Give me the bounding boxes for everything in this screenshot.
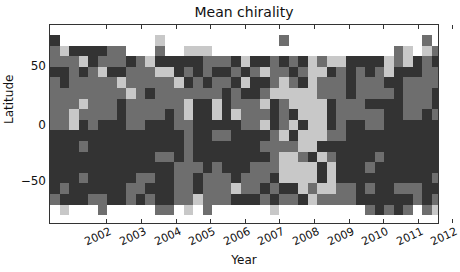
heatmap-cell: [165, 77, 175, 88]
heatmap-cell: [384, 141, 394, 152]
heatmap-cell: [193, 99, 203, 110]
heatmap-cell: [308, 35, 318, 46]
heatmap-cell: [356, 173, 366, 184]
heatmap-cell: [279, 109, 289, 120]
heatmap-cell: [222, 205, 232, 216]
heatmap-cell: [403, 194, 413, 205]
heatmap-cell: [79, 56, 89, 67]
heatmap-cell: [413, 109, 423, 120]
heatmap-cell: [203, 67, 213, 78]
heatmap-cell: [184, 88, 194, 99]
heatmap-cell: [126, 67, 136, 78]
heatmap-cell: [298, 35, 308, 46]
heatmap-cell: [260, 194, 270, 205]
heatmap-cell: [145, 173, 155, 184]
heatmap-cell: [203, 99, 213, 110]
heatmap-cell: [184, 67, 194, 78]
heatmap-cell: [413, 67, 423, 78]
heatmap-cell: [365, 173, 375, 184]
x-tick-2008: 2008: [291, 225, 322, 249]
heatmap-cell: [145, 46, 155, 57]
heatmap-cell: [422, 205, 432, 216]
heatmap-cell: [50, 205, 60, 216]
heatmap-cell: [231, 130, 241, 141]
heatmap-cell: [203, 194, 213, 205]
heatmap-cell: [432, 141, 439, 152]
x-tick-mark: [383, 25, 384, 29]
heatmap-cell: [222, 130, 232, 141]
heatmap-cell: [308, 88, 318, 99]
heatmap-cell: [336, 205, 346, 216]
heatmap-cell: [212, 46, 222, 57]
heatmap-cell: [336, 162, 346, 173]
heatmap-cell: [136, 120, 146, 131]
heatmap-cell: [145, 77, 155, 88]
heatmap-cell: [384, 194, 394, 205]
heatmap-cell: [136, 194, 146, 205]
heatmap-cell: [356, 67, 366, 78]
heatmap-cell: [212, 120, 222, 131]
heatmap-cell: [69, 109, 79, 120]
heatmap-cell: [222, 67, 232, 78]
heatmap-cell: [50, 35, 60, 46]
heatmap-cell: [193, 162, 203, 173]
heatmap-cell: [222, 99, 232, 110]
heatmap-cell: [422, 162, 432, 173]
heatmap-cell: [155, 120, 165, 131]
heatmap-cell: [250, 194, 260, 205]
heatmap-cell: [165, 99, 175, 110]
heatmap-cell: [365, 77, 375, 88]
heatmap-cell: [165, 183, 175, 194]
heatmap-cell: [222, 162, 232, 173]
heatmap-cell: [289, 99, 299, 110]
heatmap-cell: [241, 109, 251, 120]
heatmap-cell: [203, 130, 213, 141]
heatmap-cell: [394, 194, 404, 205]
heatmap-cell: [88, 35, 98, 46]
heatmap-cell: [165, 141, 175, 152]
heatmap-cell: [88, 205, 98, 216]
heatmap-cell: [279, 77, 289, 88]
heatmap-cell: [413, 120, 423, 131]
x-tick-mark: [210, 25, 211, 29]
heatmap-cell: [394, 77, 404, 88]
heatmap-cell: [336, 35, 346, 46]
heatmap-cell: [69, 173, 79, 184]
heatmap-cell: [308, 109, 318, 120]
heatmap-cell: [145, 183, 155, 194]
heatmap-cell: [317, 152, 327, 163]
heatmap-cell: [270, 183, 280, 194]
heatmap-cell: [384, 173, 394, 184]
heatmap-cell: [117, 109, 127, 120]
heatmap-cell: [88, 56, 98, 67]
heatmap-cell: [422, 194, 432, 205]
heatmap-cell: [260, 99, 270, 110]
heatmap-cell: [289, 130, 299, 141]
heatmap-cell: [250, 99, 260, 110]
x-tick-mark: [349, 25, 350, 29]
heatmap-cell: [174, 205, 184, 216]
heatmap-cell: [327, 67, 337, 78]
heatmap-cell: [212, 141, 222, 152]
heatmap-cell: [327, 162, 337, 173]
heatmap-cell: [394, 173, 404, 184]
heatmap-cell: [231, 173, 241, 184]
heatmap-cell: [98, 88, 108, 99]
heatmap-grid: [50, 35, 439, 215]
heatmap-cell: [241, 173, 251, 184]
heatmap-cell: [69, 183, 79, 194]
heatmap-cell: [241, 183, 251, 194]
heatmap-cell: [126, 130, 136, 141]
heatmap-cell: [165, 67, 175, 78]
heatmap-cell: [145, 56, 155, 67]
heatmap-cell: [126, 205, 136, 216]
heatmap-cell: [346, 194, 356, 205]
heatmap-cell: [107, 152, 117, 163]
heatmap-cell: [88, 162, 98, 173]
heatmap-cell: [317, 120, 327, 131]
heatmap-cell: [270, 88, 280, 99]
heatmap-cell: [327, 46, 337, 57]
heatmap-cell: [79, 183, 89, 194]
heatmap-cell: [422, 152, 432, 163]
heatmap-cell: [193, 152, 203, 163]
